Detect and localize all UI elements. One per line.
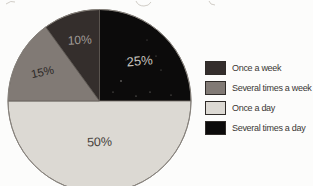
pie-chart-figure: 25%50%15%10% Once a weekSeveral times a … bbox=[0, 0, 313, 186]
scan-artifacts bbox=[6, 1, 215, 6]
slice-label-once-a-day: 50% bbox=[87, 135, 113, 150]
legend-swatch bbox=[205, 81, 226, 95]
legend-item-once-a-week: Once a week bbox=[205, 61, 312, 75]
legend-item-several-times-a-day: Several times a day bbox=[205, 121, 312, 135]
legend-swatch bbox=[205, 61, 226, 75]
legend-swatch bbox=[205, 121, 226, 135]
legend-item-several-times-a-week: Several times a week bbox=[205, 81, 312, 95]
slice-label-once-a-week: 10% bbox=[67, 32, 92, 47]
slice-label-several-times-a-day: 25% bbox=[126, 52, 154, 69]
legend-item-once-a-day: Once a day bbox=[205, 101, 312, 115]
legend-swatch bbox=[205, 101, 226, 115]
legend: Once a weekSeveral times a weekOnce a da… bbox=[205, 61, 312, 141]
legend-label: Several times a day bbox=[232, 121, 305, 135]
pie-wedges: 25%50%15%10% bbox=[8, 10, 191, 187]
legend-label: Once a week bbox=[232, 61, 281, 75]
legend-label: Several times a week bbox=[232, 81, 312, 95]
legend-label: Once a day bbox=[232, 101, 275, 115]
